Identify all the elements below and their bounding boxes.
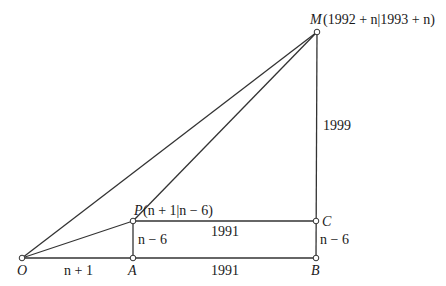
point-M (314, 29, 320, 35)
segment-OP (22, 221, 133, 258)
point-C (313, 218, 319, 224)
point-O (19, 255, 25, 261)
segment-OM (22, 32, 317, 258)
label-PC: 1991 (211, 224, 239, 239)
label-AB: 1991 (211, 263, 239, 278)
label-A: A (127, 263, 137, 278)
label-CM: 1999 (323, 118, 351, 133)
label-O: O (17, 263, 27, 278)
label-P: P (133, 203, 143, 218)
label-BC: n − 6 (320, 232, 349, 247)
point-P (130, 218, 136, 224)
point-A (130, 255, 136, 261)
segment-PM (133, 32, 317, 221)
coord-M: (1992 + n|1993 + n) (323, 12, 435, 28)
segments (22, 32, 317, 258)
label-B: B (311, 263, 320, 278)
label-AP: n − 6 (138, 232, 167, 247)
label-C: C (322, 214, 332, 229)
coord-P: (n + 1|n − 6) (143, 203, 213, 219)
geometry-diagram: O A B C P (n + 1|n − 6) M (1992 + n|1993… (0, 0, 446, 286)
label-M: M (309, 12, 323, 27)
label-OA: n + 1 (64, 263, 93, 278)
point-B (313, 255, 319, 261)
segment-labels: n + 1 1991 1991 n − 6 n − 6 1999 (64, 118, 351, 278)
